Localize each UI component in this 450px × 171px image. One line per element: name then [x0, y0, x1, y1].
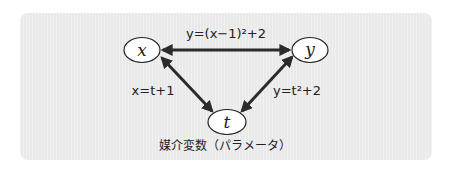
node-t: t	[208, 110, 246, 135]
parameter-caption: 媒介変数（パラメータ）	[0, 136, 450, 153]
node-y-label: y	[304, 39, 315, 59]
edge-y-t-label: y=t²+2	[273, 83, 321, 98]
node-y: y	[292, 38, 328, 63]
node-t-label: t	[224, 112, 231, 132]
node-x: x	[124, 38, 160, 63]
node-x-label: x	[137, 40, 147, 60]
edge-x-y-label: y=(x−1)²+2	[186, 26, 266, 41]
edge-x-t-label: x=t+1	[132, 83, 175, 98]
